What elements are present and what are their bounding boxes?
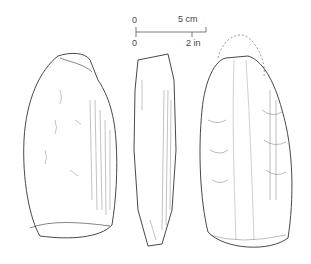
side-profile-view xyxy=(134,54,176,246)
reverse-face-view xyxy=(200,35,292,247)
stone-tool-drawing xyxy=(0,0,311,264)
front-face-view xyxy=(24,53,117,237)
